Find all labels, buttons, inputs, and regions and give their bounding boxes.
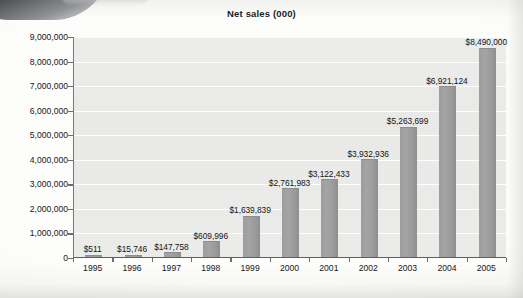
y-axis-tick-label: 3,000,000	[4, 179, 68, 189]
x-axis-tick-label: 2002	[346, 263, 390, 273]
x-axis-tick-mark	[349, 258, 350, 262]
y-axis-tick-label: 7,000,000	[4, 81, 68, 91]
y-axis-tick-label: 8,000,000	[4, 57, 68, 67]
y-axis-tick-mark	[68, 111, 73, 112]
y-axis: 01,000,0002,000,0003,000,0004,000,0005,0…	[0, 0, 68, 298]
x-axis-tick-label: 1997	[149, 263, 193, 273]
x-axis-tick-label: 2001	[307, 263, 351, 273]
x-axis-tick-mark	[309, 258, 310, 262]
y-axis-tick-label: 0	[4, 253, 68, 263]
x-axis-tick-mark	[467, 258, 468, 262]
bar-value-label: $6,921,124	[426, 76, 467, 86]
y-axis-tick-label: 1,000,000	[4, 228, 68, 238]
x-axis-tick-label: 1998	[189, 263, 233, 273]
x-axis-tick-label: 2003	[386, 263, 430, 273]
x-axis-tick-mark	[112, 258, 113, 262]
x-axis-tick-label: 2004	[425, 263, 469, 273]
y-axis-tick-label: 4,000,000	[4, 155, 68, 165]
y-axis-tick-mark	[68, 184, 73, 185]
bar-value-label: $8,490,000	[466, 37, 507, 47]
gridline	[74, 62, 507, 63]
x-axis-tick-mark	[73, 258, 74, 262]
bar-value-label: $3,932,936	[348, 149, 389, 159]
bar[interactable]	[85, 255, 102, 257]
y-axis-tick-label: 2,000,000	[4, 204, 68, 214]
bar[interactable]	[321, 179, 338, 257]
x-axis-tick-mark	[427, 258, 428, 262]
x-axis-tick-mark	[506, 258, 507, 262]
y-axis-tick-label: 5,000,000	[4, 130, 68, 140]
x-axis-tick-label: 1996	[110, 263, 154, 273]
y-axis-tick-mark	[68, 135, 73, 136]
bar-value-label: $147,758	[154, 242, 189, 252]
bar-value-label: $1,639,839	[229, 205, 270, 215]
bar[interactable]	[282, 188, 299, 257]
bar[interactable]	[361, 159, 378, 257]
x-axis-tick-label: 2000	[268, 263, 312, 273]
bar-value-label: $3,122,433	[308, 169, 349, 179]
chart-title: Net sales (000)	[0, 8, 523, 19]
bar-value-label: $2,761,983	[269, 178, 310, 188]
y-axis-tick-mark	[68, 62, 73, 63]
y-axis-tick-mark	[68, 233, 73, 234]
bar-value-label: $15,746	[117, 244, 147, 254]
bar[interactable]	[125, 255, 142, 257]
y-axis-tick-mark	[68, 209, 73, 210]
bar[interactable]	[164, 252, 181, 257]
x-axis-tick-mark	[152, 258, 153, 262]
x-axis-tick-mark	[270, 258, 271, 262]
y-axis-tick-mark	[68, 37, 73, 38]
bar-value-label: $511	[84, 244, 102, 254]
bar[interactable]	[243, 216, 260, 257]
bar[interactable]	[203, 241, 220, 257]
x-axis-tick-label: 1995	[71, 263, 115, 273]
bar[interactable]	[400, 127, 417, 257]
y-axis-tick-label: 6,000,000	[4, 106, 68, 116]
plot-area	[73, 37, 506, 258]
y-axis-tick-mark	[68, 86, 73, 87]
bar[interactable]	[479, 48, 496, 257]
bar-chart: Net sales (000) 01,000,0002,000,0003,000…	[0, 0, 523, 298]
x-axis-tick-label: 2005	[464, 263, 508, 273]
x-axis-tick-mark	[388, 258, 389, 262]
bar-value-label: $5,263,699	[387, 116, 428, 126]
x-axis-tick-mark	[230, 258, 231, 262]
x-axis-tick-label: 1999	[228, 263, 272, 273]
bar[interactable]	[439, 86, 456, 257]
gridline	[74, 37, 507, 38]
y-axis-tick-mark	[68, 160, 73, 161]
y-axis-tick-label: 9,000,000	[4, 32, 68, 42]
bar-value-label: $609,996	[193, 231, 228, 241]
x-axis-tick-mark	[191, 258, 192, 262]
